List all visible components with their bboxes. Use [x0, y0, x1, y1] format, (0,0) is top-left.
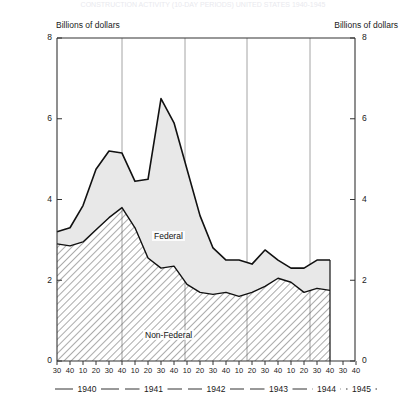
chart-container: CONSTRUCTION ACTIVITY (10-DAY PERIODS) U…	[0, 0, 406, 412]
year-label-1943: 1943	[259, 384, 299, 394]
year-label-1941: 1941	[134, 384, 174, 394]
area-series-layer	[57, 99, 330, 361]
series-label-non-federal: Non-Federal	[143, 330, 194, 340]
plot-area	[0, 0, 406, 412]
year-label-1945: 1945	[342, 384, 382, 394]
year-label-1940: 1940	[67, 384, 107, 394]
year-label-1942: 1942	[196, 384, 236, 394]
x-tick-label: 40	[348, 366, 364, 375]
year-label-1944: 1944	[307, 384, 347, 394]
series-label-federal: Federal	[152, 231, 185, 241]
